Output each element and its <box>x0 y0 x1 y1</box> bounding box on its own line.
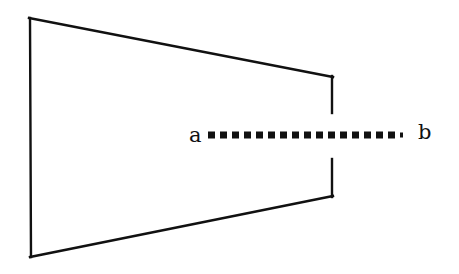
dot <box>364 132 371 139</box>
label-a: a <box>189 125 202 146</box>
dot <box>292 132 299 139</box>
dot <box>352 132 359 139</box>
dot <box>280 132 287 139</box>
dot <box>244 132 251 139</box>
trapezoid-left-edge <box>30 18 31 257</box>
dot <box>388 132 395 139</box>
label-b: b <box>418 122 431 143</box>
trapezoid-top-edge <box>29 18 333 77</box>
dot <box>328 132 335 139</box>
dot <box>340 132 347 139</box>
dot <box>208 132 215 139</box>
figure-canvas: a b <box>0 0 459 274</box>
dot <box>268 132 275 139</box>
diagram-svg <box>0 0 459 274</box>
dot <box>232 132 239 139</box>
trapezoid-bottom-edge <box>30 196 333 257</box>
dot <box>400 133 403 138</box>
dotted-segment-ab <box>208 132 403 139</box>
dot <box>316 132 323 139</box>
dot <box>256 132 263 139</box>
dot <box>376 132 383 139</box>
dot <box>220 132 227 139</box>
dot <box>304 132 311 139</box>
